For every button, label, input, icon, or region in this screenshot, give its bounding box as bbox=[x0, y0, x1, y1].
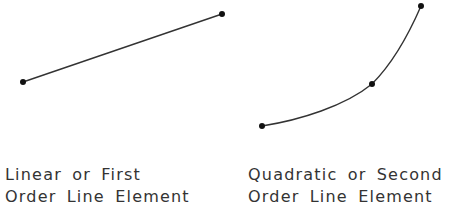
node-point bbox=[418, 3, 424, 9]
linear-line-segment bbox=[23, 14, 222, 82]
quadratic-element bbox=[259, 3, 424, 129]
node-point bbox=[259, 123, 265, 129]
caption-line: Linear or First bbox=[5, 164, 190, 186]
quadratic-curve-segment bbox=[262, 6, 421, 126]
caption-line: Quadratic or Second bbox=[248, 164, 443, 186]
node-point bbox=[219, 11, 225, 17]
caption-line: Order Line Element bbox=[5, 186, 190, 208]
quadratic-caption: Quadratic or Second Order Line Element bbox=[248, 164, 443, 208]
node-point bbox=[369, 81, 375, 87]
caption-line: Order Line Element bbox=[248, 186, 443, 208]
node-point bbox=[20, 79, 26, 85]
linear-element bbox=[20, 11, 225, 85]
linear-caption: Linear or First Order Line Element bbox=[5, 164, 190, 208]
